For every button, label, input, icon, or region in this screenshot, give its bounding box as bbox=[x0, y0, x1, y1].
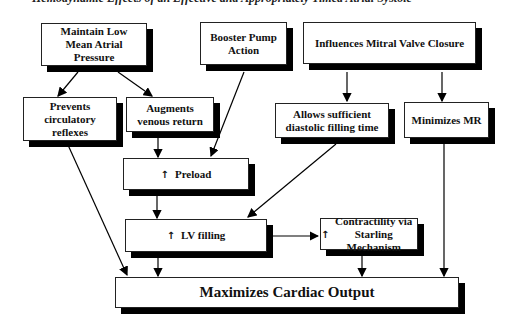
node-label: Minimizes MR bbox=[412, 114, 482, 127]
node-label: Prevents circulatory reflexes bbox=[34, 100, 106, 139]
node-lvfilling: ↑ LV filling bbox=[125, 219, 267, 252]
node-contractility: ↑ Contractility via Starling Mechanism bbox=[320, 218, 418, 250]
node-label: Booster Pump Action bbox=[209, 31, 278, 57]
node-label: Contractility via Starling Mechanism bbox=[330, 215, 417, 254]
node-label: Maximizes Cardiac Output bbox=[200, 286, 375, 299]
node-label: LV filling bbox=[181, 229, 225, 242]
node-prevents: Prevents circulatory reflexes bbox=[23, 97, 117, 141]
increase-arrow-icon: ↑ bbox=[167, 229, 175, 242]
increase-arrow-icon: ↑ bbox=[161, 168, 169, 181]
node-label: Allows sufficient diastolic filling time bbox=[276, 108, 388, 134]
node-label: Influences Mitral Valve Closure bbox=[315, 37, 464, 50]
node-label: Augments venous return bbox=[129, 102, 211, 128]
node-booster: Booster Pump Action bbox=[200, 22, 287, 65]
node-mitral: Influences Mitral Valve Closure bbox=[303, 22, 476, 64]
increase-arrow-icon: ↑ bbox=[321, 228, 329, 241]
node-augments: Augments venous return bbox=[126, 97, 214, 132]
node-maintain: Maintain Low Mean Atrial Pressure bbox=[41, 23, 147, 66]
node-label: Maintain Low Mean Atrial Pressure bbox=[48, 25, 140, 64]
node-allows: Allows sufficient diastolic filling time bbox=[275, 103, 389, 138]
node-label: Preload bbox=[175, 168, 211, 181]
node-output: Maximizes Cardiac Output bbox=[115, 277, 459, 308]
node-minimizes: Minimizes MR bbox=[404, 102, 489, 138]
node-preload: ↑ Preload bbox=[123, 158, 249, 190]
